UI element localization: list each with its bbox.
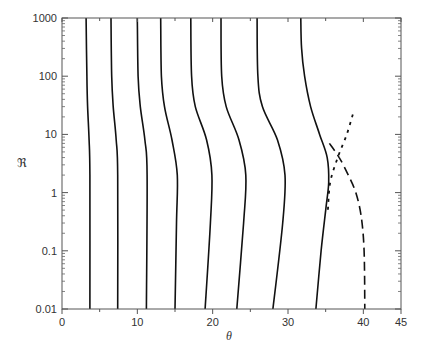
plot-frame	[62, 18, 401, 309]
curve-6	[221, 18, 246, 309]
y-tick-label: 1	[51, 187, 57, 199]
curve-4	[161, 18, 178, 309]
data-curves	[86, 18, 365, 309]
x-axis-label: θ	[226, 329, 232, 343]
x-tick-label: 0	[59, 316, 65, 328]
curve-1	[86, 18, 90, 309]
axes: 010203040450.010.11101001000	[33, 12, 408, 328]
curve-5	[191, 18, 212, 309]
curve-3	[137, 18, 147, 309]
dotted-boundary	[328, 115, 353, 211]
x-tick-label: 45	[395, 316, 407, 328]
x-tick-label: 40	[357, 316, 369, 328]
x-tick-label: 10	[131, 316, 143, 328]
y-tick-label: 10	[45, 128, 57, 140]
curve-7	[257, 18, 285, 309]
y-tick-label: 0.1	[42, 245, 57, 257]
x-tick-label: 20	[207, 316, 219, 328]
y-axis-label: ℜ	[17, 156, 27, 170]
curve-8	[301, 18, 329, 309]
y-tick-label: 1000	[33, 12, 57, 24]
x-tick-label: 30	[282, 316, 294, 328]
y-tick-label: 0.01	[36, 303, 57, 315]
curve-2	[111, 18, 118, 309]
y-tick-label: 100	[39, 70, 57, 82]
chart: 010203040450.010.11101001000 θ ℜ	[0, 0, 421, 354]
